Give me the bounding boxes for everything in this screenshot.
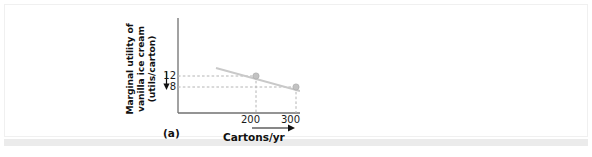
plot-b — [0, 0, 300, 157]
figure-container: Marginal utility of vanilla ice cream (u… — [0, 0, 592, 157]
panel-b: Marginal utility of chocolate ice cream … — [292, 0, 592, 157]
